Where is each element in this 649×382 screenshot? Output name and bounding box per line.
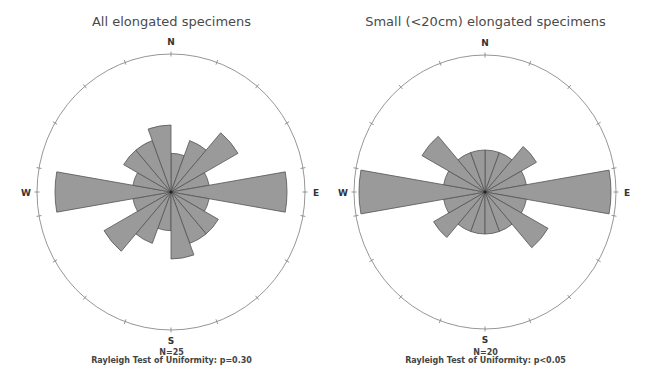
center-point (169, 190, 172, 193)
tick-mark (37, 168, 42, 169)
rayleigh-label: Rayleigh Test of Uniformity: p=0.30 (0, 357, 343, 365)
west-label: W (21, 188, 31, 198)
north-label: N (481, 38, 489, 48)
east-label: E (624, 188, 630, 198)
north-label: N (167, 37, 175, 47)
east-label: E (313, 188, 319, 198)
rayleigh-label: Rayleigh Test of Uniformity: p<0.05 (314, 357, 649, 365)
south-label: S (168, 336, 174, 346)
tick-mark (354, 215, 359, 216)
tick-mark (612, 215, 617, 216)
tick-mark (354, 168, 359, 169)
west-label: W (338, 188, 348, 198)
tick-mark (301, 168, 306, 169)
south-label: S (482, 335, 488, 345)
tick-mark (301, 216, 306, 217)
rose-diagrams: NESWNESW (0, 0, 649, 382)
tick-mark (612, 168, 617, 169)
tick-mark (37, 216, 42, 217)
center-point (483, 190, 486, 193)
